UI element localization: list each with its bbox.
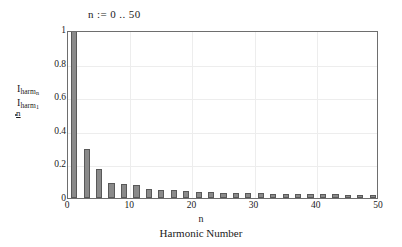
bar	[370, 195, 376, 198]
plot-area	[67, 31, 378, 199]
x-tick-label: 40	[311, 201, 321, 211]
bar	[320, 194, 326, 198]
bar	[158, 190, 164, 198]
bar	[345, 195, 351, 198]
fraction-divider	[15, 114, 17, 116]
bar	[233, 193, 239, 198]
bar	[108, 183, 114, 198]
y-tick-label: 0.8	[54, 60, 66, 70]
y-tick-label: 0.2	[54, 161, 66, 171]
bar	[133, 185, 139, 198]
bar	[258, 193, 264, 198]
bar	[332, 194, 338, 198]
bar	[220, 193, 226, 198]
bar	[96, 169, 102, 198]
numerator-sub-subscript: n	[36, 90, 39, 96]
y-tick-label: 0.6	[54, 93, 66, 103]
bar	[357, 195, 363, 198]
bar	[283, 194, 289, 198]
denominator-subscript: harm	[20, 101, 35, 110]
x-axis-variable-label: n	[0, 213, 402, 224]
numerator-subscript: harm	[20, 87, 35, 96]
bar	[295, 194, 301, 198]
bar	[84, 149, 90, 198]
bar	[183, 191, 189, 198]
y-tick-label: 0.4	[54, 127, 66, 137]
bar	[171, 190, 177, 198]
y-axis-label-fraction: Iharmn Iharm1 n	[15, 84, 41, 118]
x-tick-label: 0	[65, 201, 70, 211]
x-tick-label: 10	[124, 201, 134, 211]
bar	[196, 192, 202, 198]
harmonic-spectrum-figure: n := 0 .. 50 Iharmn Iharm1 n 10.80.60.40…	[0, 0, 402, 247]
bar-series	[68, 32, 377, 198]
bar	[208, 192, 214, 198]
y-axis-label-numerator: Iharmn	[15, 84, 41, 97]
x-axis-title: Harmonic Number	[0, 227, 402, 239]
bar	[245, 193, 251, 198]
bar	[146, 189, 152, 198]
denominator-sub-subscript: 1	[36, 104, 39, 110]
x-tick-label: 20	[187, 201, 197, 211]
bar	[270, 194, 276, 198]
bar	[71, 31, 77, 198]
bar	[121, 184, 127, 198]
range-definition-title: n := 0 .. 50	[88, 8, 141, 20]
y-tick-label: 1	[61, 26, 66, 36]
x-tick-label: 30	[249, 201, 259, 211]
y-axis-index-variable: n	[15, 109, 41, 118]
x-tick-label: 50	[373, 201, 383, 211]
bar	[307, 194, 313, 198]
